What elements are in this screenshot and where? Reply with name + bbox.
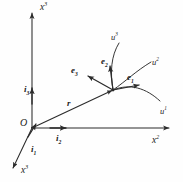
position-vector-label-r: r [67, 99, 71, 108]
basis-label-i1: i1 [31, 145, 36, 154]
basis-label-e2: e2 [101, 57, 108, 66]
basis-label-i3: i3 [24, 85, 29, 94]
curve-label-u2: u2 [152, 58, 159, 67]
origin-label: O [20, 118, 27, 128]
position-vector-r [32, 91, 112, 129]
basis-label-i2: i2 [56, 134, 61, 143]
basis-label-e1: e1 [127, 73, 134, 82]
curve-label-u3: u3 [111, 33, 118, 42]
curve-label-u1: u1 [160, 107, 167, 116]
axis-label-x3: x3 [40, 3, 47, 13]
basis-label-e3: e3 [71, 66, 78, 75]
axis-label-x2: x2 [152, 136, 159, 146]
point-p-marker [112, 89, 115, 92]
figure-canvas: x3 x2 x3 O i3 i2 i1 r e3 e2 e1 u3 u2 u1 [0, 0, 183, 182]
axis-label-x1: x3 [21, 166, 28, 176]
basis-e3-arrow [88, 76, 113, 90]
